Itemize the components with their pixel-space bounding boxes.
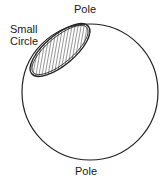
sphere-outline xyxy=(22,24,158,160)
top-pole-label: Pole xyxy=(74,4,96,15)
bottom-pole-label: Pole xyxy=(75,166,97,177)
small-circle-label-line2: Circle xyxy=(10,36,38,47)
small-circle-label-line1: Small xyxy=(10,24,38,35)
